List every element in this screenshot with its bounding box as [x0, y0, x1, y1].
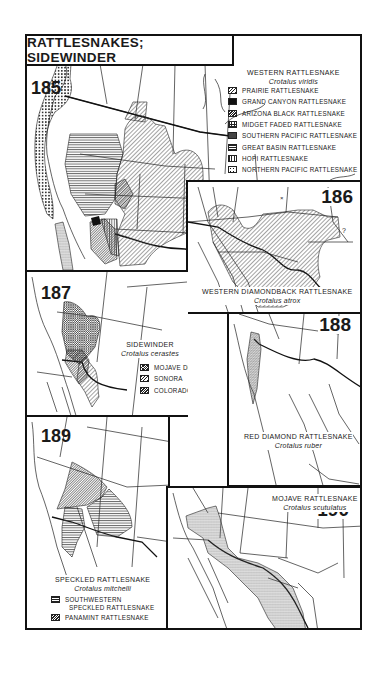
map-189-speckled: 189 SPECKLED RATTLESNAKE Crotalus mitche… [25, 415, 170, 630]
page-title: RATTLESNAKES; SIDEWINDER [27, 35, 232, 65]
map-187-caption: SIDEWINDER Crotalus cerastes [121, 340, 179, 358]
prairie-swatch-icon [228, 87, 237, 94]
map-188-caption: RED DIAMOND RATTLESNAKE Crotalus ruber [244, 432, 353, 450]
legend-item: MIDGET FADED RATTLESNAKE [228, 119, 357, 130]
map-187-sidewinder: 187 SIDEWINDER Crotalus cerastes MOJAVE … [25, 270, 188, 417]
map-186-species-name: WESTERN DIAMONDBACK RATTLESNAKE [202, 288, 352, 295]
map-185-legend: PRAIRIE RATTLESNAKE GRAND CANYON RATTLES… [228, 85, 357, 175]
map-188-number: 188 [318, 316, 352, 334]
map-185-species-name: WESTERN RATTLESNAKE [247, 69, 340, 76]
map-185-number: 185 [30, 79, 62, 97]
map-187-species-name: SIDEWINDER [126, 341, 174, 348]
sonora-swatch-icon [140, 375, 149, 382]
legend-item: SONORA [140, 373, 188, 384]
grand-canyon-swatch-icon [228, 98, 237, 105]
legend-item: NORTHERN PACIFIC RATTLESNAKE [228, 164, 357, 175]
legend-item: PANAMINT RATTLESNAKE [51, 612, 154, 623]
map-188-graphic [229, 314, 362, 487]
southern-pacific-swatch-icon [228, 132, 237, 139]
map-189-species-name: SPECKLED RATTLESNAKE [55, 576, 150, 583]
map-190-species-name: MOJAVE RATTLESNAKE [272, 495, 358, 502]
map-189-scientific-name: Crotalus mitchelli [55, 584, 150, 593]
panamint-swatch-icon [51, 614, 60, 621]
legend-item: COLORADO DESERT [140, 385, 188, 396]
map-186-western-diamondback: × 186 ? WESTERN DIAMONDBACK RATTLESNAKE … [186, 180, 362, 314]
map-190-caption: MOJAVE RATTLESNAKE Crotalus scutulatus [272, 494, 358, 512]
legend-item: SOUTHERN PACIFIC RATTLESNAKE [228, 130, 357, 141]
legend-item: HOPI RATTLESNAKE [228, 153, 357, 164]
midget-faded-swatch-icon [228, 121, 237, 128]
legend-item: PRAIRIE RATTLESNAKE [228, 85, 357, 96]
page-title-box: RATTLESNAKES; SIDEWINDER [25, 34, 234, 66]
southwestern-speckled-swatch-icon [51, 596, 60, 603]
hopi-swatch-icon [228, 155, 237, 162]
map-187-number: 187 [40, 284, 72, 302]
legend-item: MOJAVE DESERT [140, 362, 188, 373]
map-190-scientific-name: Crotalus scutulatus [272, 503, 358, 512]
legend-item: SOUTHWESTERN [51, 595, 154, 603]
svg-text:×: × [280, 195, 284, 201]
northern-pacific-swatch-icon [228, 166, 237, 173]
map-190-mojave: 190 MOJAVE RATTLESNAKE Crotalus scutulat… [166, 486, 362, 630]
map-187-legend: MOJAVE DESERT SONORA COLORADO DESERT [140, 362, 188, 396]
legend-item: GRAND CANYON RATTLESNAKE [228, 96, 357, 107]
mojave-desert-swatch-icon [140, 364, 149, 371]
map-186-scientific-name: Crotalus atrox [202, 296, 352, 305]
map-189-number: 189 [40, 427, 72, 445]
map-188-scientific-name: Crotalus ruber [244, 441, 353, 450]
map-188-red-diamond: 188 RED DIAMOND RATTLESNAKE Crotalus rub… [227, 312, 362, 487]
map-185-caption: WESTERN RATTLESNAKE Crotalus viridis [247, 68, 340, 86]
map-186-number: 186 [320, 188, 354, 206]
map-189-legend: SOUTHWESTERN SPECKLED RATTLESNAKE PANAMI… [51, 595, 154, 623]
map-189-caption: SPECKLED RATTLESNAKE Crotalus mitchelli [55, 575, 150, 593]
map-186-question-mark: ? [342, 227, 346, 234]
legend-item-continuation: SPECKLED RATTLESNAKE [51, 603, 154, 612]
legend-item: GREAT BASIN RATTLESNAKE [228, 141, 357, 152]
colorado-desert-swatch-icon [140, 387, 149, 394]
great-basin-swatch-icon [228, 144, 237, 151]
arizona-black-swatch-icon [228, 110, 237, 117]
legend-item: ARIZONA BLACK RATTLESNAKE [228, 108, 357, 119]
map-186-caption: WESTERN DIAMONDBACK RATTLESNAKE Crotalus… [202, 287, 352, 305]
map-187-scientific-name: Crotalus cerastes [121, 349, 179, 358]
map-188-species-name: RED DIAMOND RATTLESNAKE [244, 433, 353, 440]
